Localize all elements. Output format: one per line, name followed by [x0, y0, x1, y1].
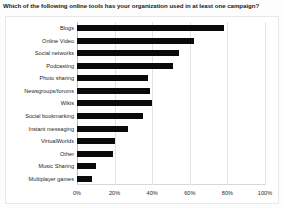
bar	[77, 100, 152, 106]
bar-row: Photo sharing	[77, 72, 265, 85]
category-label: Social networks	[35, 50, 74, 56]
category-label: Social bookmarking	[25, 113, 74, 119]
bar	[77, 126, 128, 132]
bar	[77, 151, 113, 157]
gridline	[265, 22, 266, 185]
bar	[77, 176, 92, 182]
bar	[77, 75, 148, 81]
bar-row: Wikis	[77, 97, 265, 110]
bar-row: Blogs	[77, 22, 265, 35]
bar-row: Newsgroups/forums	[77, 85, 265, 98]
bar-row: Other	[77, 147, 265, 160]
x-axis-tick-labels: 0%20%40%60%80%100%	[77, 190, 265, 202]
bar-row: VirtualWorlds	[77, 135, 265, 148]
x-tick-label: 20%	[109, 190, 120, 196]
x-tick-label: 80%	[222, 190, 233, 196]
bar-row: Music Sharing	[77, 160, 265, 173]
x-tick-label: 0%	[73, 190, 81, 196]
category-label: Online Video	[42, 38, 74, 44]
bar-rows: BlogsOnline VideoSocial networksPodcasti…	[77, 22, 265, 185]
category-label: Blogs	[60, 25, 74, 31]
category-label: VirtualWorlds	[41, 138, 74, 144]
x-tick-label: 60%	[184, 190, 195, 196]
bar-row: Online Video	[77, 35, 265, 48]
bar	[77, 163, 96, 169]
bar	[77, 63, 173, 69]
bar	[77, 25, 224, 31]
bar	[77, 138, 115, 144]
category-label: Multiplayer games	[29, 176, 74, 182]
category-label: Instant messaging	[29, 126, 74, 132]
bar	[77, 50, 179, 56]
chart-figure: Which of the following online tools has …	[0, 0, 284, 209]
bar-row: Social bookmarking	[77, 110, 265, 123]
bar-row: Instant messaging	[77, 122, 265, 135]
category-label: Podcasting	[46, 63, 74, 69]
plot-area: BlogsOnline VideoSocial networksPodcasti…	[77, 22, 265, 185]
category-label: Photo sharing	[39, 75, 74, 81]
bar	[77, 38, 194, 44]
category-label: Wikis	[61, 100, 74, 106]
chart-title: Which of the following online tools has …	[3, 2, 281, 10]
category-label: Other	[60, 151, 74, 157]
x-tick-label: 100%	[258, 190, 272, 196]
bar-row: Social networks	[77, 47, 265, 60]
bar	[77, 113, 143, 119]
category-label: Newsgroups/forums	[24, 88, 74, 94]
bar-row: Podcasting	[77, 60, 265, 73]
x-tick-label: 40%	[147, 190, 158, 196]
category-label: Music Sharing	[39, 163, 74, 169]
bar	[77, 88, 150, 94]
bar-row: Multiplayer games	[77, 172, 265, 185]
